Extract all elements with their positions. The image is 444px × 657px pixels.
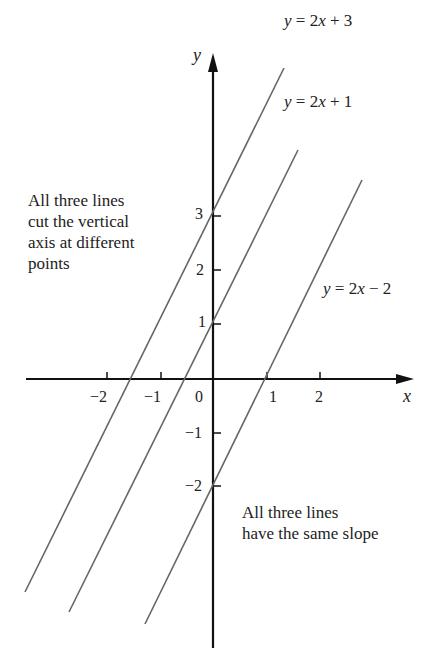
note-intercepts: All three lines cut the vertical axis at… [28, 190, 134, 274]
xtick-minus1: −1 [144, 389, 161, 405]
label-line3: y = 2x − 2 [323, 280, 391, 297]
x-axis-arrow-icon [396, 374, 414, 384]
plot-canvas [0, 0, 444, 657]
x-axis-label: x [403, 387, 411, 405]
ytick-2: 2 [196, 262, 204, 278]
xtick-minus2: −2 [90, 389, 107, 405]
y-axis-label: y [193, 46, 201, 64]
y-axis-arrow-icon [208, 53, 218, 72]
label-line1: y = 2x + 3 [284, 12, 352, 29]
ytick-minus1: −1 [185, 425, 202, 441]
ytick-3: 3 [195, 206, 203, 222]
note-slope: All three lines have the same slope [242, 502, 378, 544]
ytick-minus2: −2 [185, 478, 202, 494]
y-ticks [213, 216, 221, 486]
label-line2: y = 2x + 1 [284, 93, 352, 110]
line-y-2x-minus-2 [145, 180, 362, 624]
xtick-2: 2 [315, 389, 323, 405]
xtick-1: 1 [269, 389, 277, 405]
ytick-1: 1 [198, 314, 206, 330]
xtick-origin: 0 [195, 389, 203, 405]
